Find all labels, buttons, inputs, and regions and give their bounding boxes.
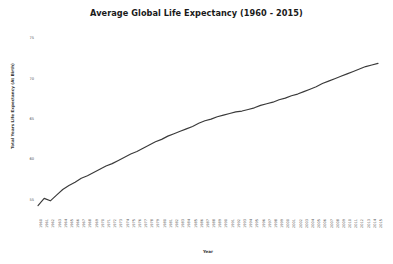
x-tick-label: 1995 — [254, 210, 258, 219]
x-tick-label: 2014 — [372, 210, 376, 219]
x-tick-label: 1977 — [143, 210, 147, 219]
chart-figure: Average Global Life Expectancy (1960 - 2… — [0, 0, 393, 264]
x-tick-label: 1964 — [63, 210, 67, 219]
x-axis-title: Year — [38, 250, 378, 254]
x-tick-label: 1994 — [248, 210, 252, 219]
x-tick-label: 1971 — [106, 210, 110, 219]
series-polyline — [38, 63, 378, 205]
x-tick-label: 1970 — [100, 210, 104, 219]
x-tick-label: 1992 — [236, 210, 240, 219]
chart-title: Average Global Life Expectancy (1960 - 2… — [0, 8, 393, 18]
x-tick-label: 1986 — [199, 210, 203, 219]
x-tick-label: 1984 — [186, 210, 190, 219]
x-tick-label: 1974 — [125, 210, 129, 219]
y-axis-title: Total Years Life Expectancy (At Birth) — [11, 41, 15, 171]
x-tick-label: 1983 — [180, 210, 184, 219]
x-tick-label: 1973 — [118, 210, 122, 219]
x-tick-label: 1999 — [279, 210, 283, 219]
x-tick-label: 1990 — [223, 210, 227, 219]
x-tick-label: 1962 — [50, 210, 54, 219]
x-tick-label: 1976 — [137, 210, 141, 219]
plot-area — [38, 31, 378, 217]
x-tick-label: 1996 — [261, 210, 265, 219]
x-tick-label: 1975 — [131, 210, 135, 219]
x-tick-label: 1998 — [273, 210, 277, 219]
x-tick-label: 2002 — [298, 210, 302, 219]
x-tick-label: 1960 — [38, 210, 42, 219]
x-tick-label: 2011 — [353, 210, 357, 219]
y-tick-label: 55 — [29, 199, 34, 203]
x-tick-label: 2004 — [310, 210, 314, 219]
x-tick-label: 1993 — [242, 210, 246, 219]
x-tick-label: 2001 — [291, 210, 295, 219]
y-tick-label: 65 — [29, 118, 34, 122]
x-tick-label: 1987 — [205, 210, 209, 219]
x-tick-label: 1997 — [267, 210, 271, 219]
x-tick-label: 2000 — [285, 210, 289, 219]
x-tick-label: 1980 — [162, 210, 166, 219]
x-tick-label: 1967 — [81, 210, 85, 219]
x-tick-label: 2005 — [316, 210, 320, 219]
x-tick-label: 2013 — [366, 210, 370, 219]
x-tick-label: 1969 — [94, 210, 98, 219]
x-tick-label: 1989 — [217, 210, 221, 219]
x-tick-label: 1982 — [174, 210, 178, 219]
x-tick-label: 1972 — [112, 210, 116, 219]
x-tick-label: 2009 — [341, 210, 345, 219]
y-tick-label: 75 — [29, 37, 34, 41]
life-expectancy-line-series — [38, 31, 378, 217]
x-tick-label: 1961 — [44, 210, 48, 219]
x-tick-label: 1979 — [155, 210, 159, 219]
x-tick-label: 1963 — [57, 210, 61, 219]
x-axis-tick-labels: 1960196119621963196419651966196719681969… — [38, 219, 378, 245]
x-tick-label: 2008 — [335, 210, 339, 219]
x-tick-label: 2012 — [359, 210, 363, 219]
y-tick-label: 60 — [29, 159, 34, 163]
x-tick-label: 1981 — [168, 210, 172, 219]
y-axis-tick-labels: 5560657075 — [0, 31, 38, 217]
x-tick-label: 2006 — [322, 210, 326, 219]
x-tick-label: 1978 — [149, 210, 153, 219]
x-tick-label: 1991 — [230, 210, 234, 219]
x-tick-label: 1965 — [69, 210, 73, 219]
x-tick-label: 1966 — [75, 210, 79, 219]
x-tick-label: 2007 — [329, 210, 333, 219]
x-tick-label: 2003 — [304, 210, 308, 219]
x-tick-label: 1988 — [211, 210, 215, 219]
x-tick-label: 1968 — [87, 210, 91, 219]
y-tick-label: 70 — [29, 78, 34, 82]
x-tick-label: 1985 — [193, 210, 197, 219]
x-tick-label: 2015 — [378, 210, 382, 219]
x-tick-label: 2010 — [347, 210, 351, 219]
